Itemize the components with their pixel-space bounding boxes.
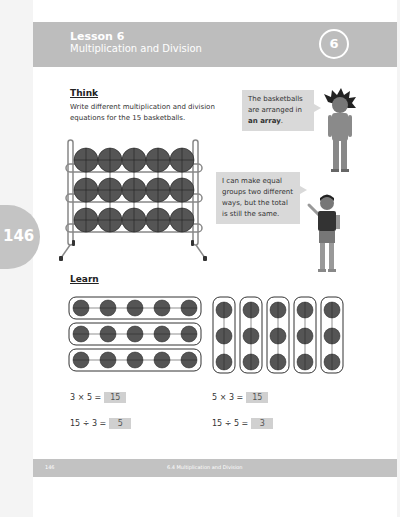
array-grouped-by-columns — [212, 296, 344, 374]
basketball-rack-illustration — [58, 132, 208, 267]
lesson-number-badge: 6 — [319, 29, 349, 59]
speech-bubble-equal-groups: I can make equal groups two different wa… — [216, 172, 300, 224]
think-heading: Think — [70, 88, 98, 98]
equation-5x3: 5 × 3 = 15 — [212, 392, 268, 403]
boy-character-illustration — [305, 193, 345, 275]
think-prompt: Write different multiplication and divis… — [70, 102, 220, 124]
equation-15div5: 15 ÷ 5 = 3 — [212, 418, 273, 429]
girl-character-illustration — [318, 88, 362, 174]
equation-3x5: 3 × 5 = 15 — [70, 392, 126, 403]
answer-box: 3 — [251, 418, 273, 429]
answer-box: 15 — [104, 392, 126, 403]
footer-title: 6.4 Multiplication and Division — [167, 464, 243, 470]
speech-bubble-array: The basketballs are arranged in an array… — [242, 90, 314, 131]
array-grouped-by-rows — [68, 296, 203, 372]
answer-box: 5 — [109, 418, 131, 429]
lesson-label: Lesson 6 — [70, 30, 124, 43]
equation-15div3: 15 ÷ 3 = 5 — [70, 418, 131, 429]
side-page-number: 146 — [3, 227, 34, 245]
bold-term-array: an array — [248, 117, 281, 125]
answer-box: 15 — [246, 392, 268, 403]
footer-page-number: 146 — [45, 464, 55, 470]
lesson-header: Lesson 6 Multiplication and Division 6 — [33, 22, 397, 67]
page-footer: 146 6.4 Multiplication and Division — [33, 459, 397, 477]
learn-heading: Learn — [70, 274, 99, 284]
lesson-title: Multiplication and Division — [70, 43, 202, 54]
